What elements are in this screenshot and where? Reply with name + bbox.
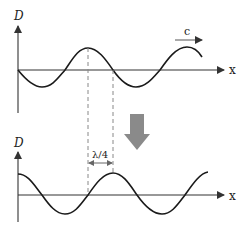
bottom-x-axis-label: x bbox=[229, 189, 236, 203]
velocity-label: c bbox=[184, 25, 190, 38]
diagram-svg: D x c D x λ/4 bbox=[0, 0, 245, 229]
top-wave-curve bbox=[18, 47, 202, 87]
top-plot: D x c bbox=[13, 9, 236, 113]
quarter-wavelength-label: λ/4 bbox=[92, 149, 108, 160]
transition-down-arrow-icon bbox=[124, 114, 150, 150]
top-y-axis-label: D bbox=[13, 9, 24, 23]
wave-diagram: D x c D x λ/4 bbox=[0, 0, 245, 229]
bottom-wave-curve bbox=[18, 172, 208, 214]
bottom-y-axis-label: D bbox=[13, 136, 24, 150]
top-x-axis-label: x bbox=[229, 63, 236, 77]
bottom-plot: D x λ/4 bbox=[13, 136, 236, 222]
